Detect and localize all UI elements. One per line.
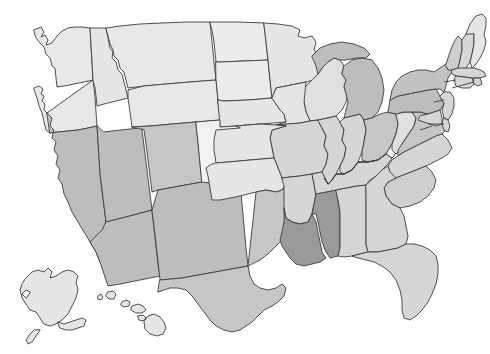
state-AL[interactable]	[336, 185, 368, 257]
state-OR[interactable]	[34, 80, 97, 133]
state-AK[interactable]	[20, 268, 86, 344]
state-WY[interactable]	[128, 80, 220, 127]
state-FL[interactable]	[352, 244, 438, 320]
state-ND[interactable]	[210, 22, 268, 62]
state-HI[interactable]	[98, 291, 166, 336]
state-WA[interactable]	[34, 27, 93, 87]
state-NV[interactable]	[97, 126, 152, 222]
state-SD[interactable]	[216, 60, 272, 101]
us-choropleth-map	[0, 0, 490, 354]
map-canvas	[0, 0, 490, 354]
state-RI[interactable]	[474, 78, 482, 86]
